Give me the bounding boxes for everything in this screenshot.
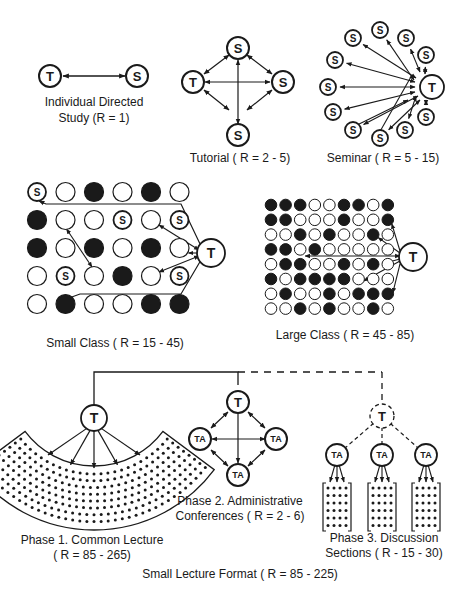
- empty-seat: [28, 267, 47, 286]
- student-dot: [372, 487, 375, 490]
- empty-seat: [113, 183, 132, 202]
- student-dot: [18, 456, 21, 459]
- student-dot: [198, 462, 201, 465]
- student-dot: [422, 494, 425, 497]
- student-dot: [189, 473, 192, 476]
- student-dot: [7, 482, 10, 485]
- empty-seat: [382, 258, 394, 270]
- phase2-label: Phase 2. Administrative: [177, 494, 303, 508]
- student-dot: [3, 450, 6, 453]
- svg-text:S: S: [423, 50, 430, 61]
- occupied-seat: [170, 295, 189, 314]
- student-dot: [55, 501, 58, 504]
- student-dot: [156, 474, 159, 477]
- student-dot: [416, 487, 419, 490]
- student-dot: [114, 512, 117, 515]
- arrow-t-ta-right: [248, 412, 265, 428]
- student-dot: [2, 459, 5, 462]
- occupied-seat: [324, 273, 336, 285]
- student-dot: [72, 477, 75, 480]
- occupied-seat: [28, 211, 47, 230]
- empty-seat: [265, 288, 277, 300]
- lecture-arrow: [97, 429, 118, 465]
- occupied-seat: [56, 295, 75, 314]
- student-dot: [18, 499, 21, 502]
- student-dot: [50, 514, 53, 517]
- occupied-seat: [265, 273, 277, 285]
- small-class-label: Small Class ( R = 15 - 45): [46, 336, 184, 350]
- occupied-seat: [294, 229, 306, 241]
- occupied-seat: [142, 239, 161, 258]
- occupied-seat: [265, 244, 277, 256]
- student-dot: [390, 509, 393, 512]
- empty-seat: [309, 303, 321, 315]
- student-dot: [199, 472, 202, 475]
- student-dot: [144, 488, 147, 491]
- student-dot: [75, 485, 78, 488]
- student-node: S: [227, 124, 249, 146]
- student-dot: [428, 524, 431, 527]
- student-dot: [384, 487, 387, 490]
- student-node: S: [325, 104, 341, 120]
- student-dot: [156, 490, 159, 493]
- section-bracket: [368, 483, 396, 531]
- empty-seat: [309, 258, 321, 270]
- student-dot: [17, 482, 20, 485]
- occupied-seat: [265, 214, 277, 226]
- section-bracket: [323, 483, 351, 531]
- occupied-seat: [324, 229, 336, 241]
- empty-seat: [113, 239, 132, 258]
- student-dot: [178, 482, 181, 485]
- student-dot: [131, 486, 134, 489]
- empty-seat: [367, 214, 379, 226]
- svg-text:T: T: [428, 80, 436, 95]
- student-dot: [85, 513, 88, 516]
- student-dot: [40, 464, 43, 467]
- empty-seat: [28, 295, 47, 314]
- svg-text:S: S: [62, 271, 69, 282]
- student-dot: [144, 473, 147, 476]
- student-dot: [167, 491, 170, 494]
- individual-study-label: Individual Directed: [45, 95, 144, 109]
- phase3-discussion-sections: TATATATPhase 3. Discussion Sections ( R …: [323, 404, 443, 560]
- student-dot: [17, 474, 20, 477]
- student-dot: [96, 500, 99, 503]
- student-dot: [121, 517, 124, 520]
- small-class-diagram: SSSSSTSmall Class ( R = 15 - 45): [28, 183, 226, 351]
- student-dot: [18, 465, 21, 468]
- empty-seat: [324, 258, 336, 270]
- student-dot: [384, 502, 387, 505]
- student-dot: [61, 481, 64, 484]
- empty-seat: [324, 199, 336, 211]
- student-dot: [50, 507, 53, 510]
- student-dot: [12, 495, 15, 498]
- arrow-s-right-s-bottom: [247, 90, 272, 110]
- student-dot: [23, 461, 26, 464]
- student-dot: [127, 473, 130, 476]
- student-dot: [339, 487, 342, 490]
- student-dot: [57, 516, 60, 519]
- student-dot: [162, 461, 165, 464]
- student-dot: [168, 474, 171, 477]
- student-dot: [144, 481, 147, 484]
- student-dot: [54, 486, 57, 489]
- student-dot: [110, 485, 113, 488]
- student-dot: [24, 503, 27, 506]
- student-node: S: [114, 211, 132, 229]
- student-dot: [35, 485, 38, 488]
- large-class-label: Large Class ( R = 45 - 85): [276, 328, 414, 342]
- empty-seat: [142, 211, 161, 230]
- student-dot: [100, 472, 103, 475]
- student-dot: [6, 491, 9, 494]
- student-dot: [131, 494, 134, 497]
- student-dot: [7, 464, 10, 467]
- student-dot: [48, 491, 51, 494]
- student-dot: [416, 502, 419, 505]
- student-dot: [78, 519, 81, 522]
- student-dot: [71, 512, 74, 515]
- empty-seat: [309, 288, 321, 300]
- student-dot: [416, 494, 419, 497]
- student-dot: [103, 492, 106, 495]
- seminar-label: Seminar ( R = 5 - 15): [327, 151, 439, 165]
- student-dot: [54, 494, 57, 497]
